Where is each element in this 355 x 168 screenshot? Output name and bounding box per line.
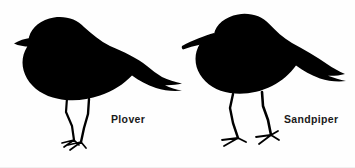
silhouette-canvas <box>0 0 355 168</box>
plover-label: Plover <box>111 114 145 125</box>
bird-comparison-figure: Plover Sandpiper <box>0 0 355 168</box>
figure-bottom-edge <box>0 167 355 168</box>
sandpiper-label: Sandpiper <box>284 114 339 125</box>
